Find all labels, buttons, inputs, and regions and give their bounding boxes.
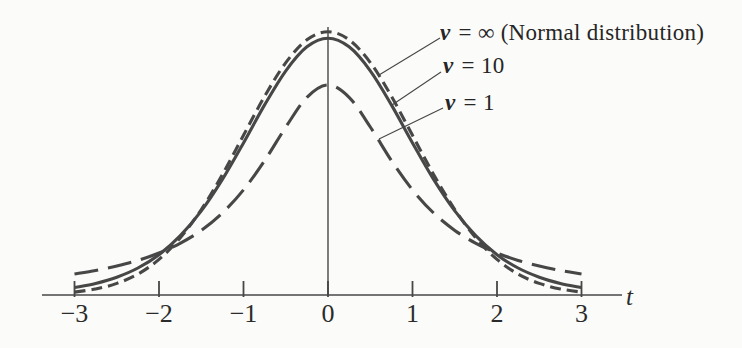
x-tick-label-neg3: −3: [61, 300, 89, 328]
x-tick-label-neg1: −1: [230, 300, 258, 328]
nu-symbol: ν: [445, 90, 458, 115]
leader-line-nu-infinity: [379, 38, 440, 75]
legend-label-text: = 1: [458, 90, 495, 115]
legend-label-nu-infinity: ν = ∞ (Normal distribution): [440, 21, 704, 45]
x-tick-label-0: 0: [322, 300, 335, 328]
x-tick-label-1: 1: [406, 300, 419, 328]
x-tick-label-neg2: −2: [145, 300, 173, 328]
x-axis-label: t: [626, 284, 633, 310]
nu-symbol: ν: [443, 53, 456, 78]
nu-symbol: ν: [440, 20, 453, 45]
t-distribution-figure: ν = ∞ (Normal distribution) ν = 10 ν = 1…: [0, 0, 742, 348]
x-tick-label-3: 3: [575, 300, 588, 328]
legend-label-nu-1: ν = 1: [445, 91, 495, 115]
leader-line-nu-10: [392, 72, 441, 105]
legend-label-text: = 10: [456, 53, 505, 78]
legend-label-text: = ∞ (Normal distribution): [453, 20, 705, 45]
legend-label-nu-10: ν = 10: [443, 54, 505, 78]
x-tick-label-2: 2: [491, 300, 504, 328]
